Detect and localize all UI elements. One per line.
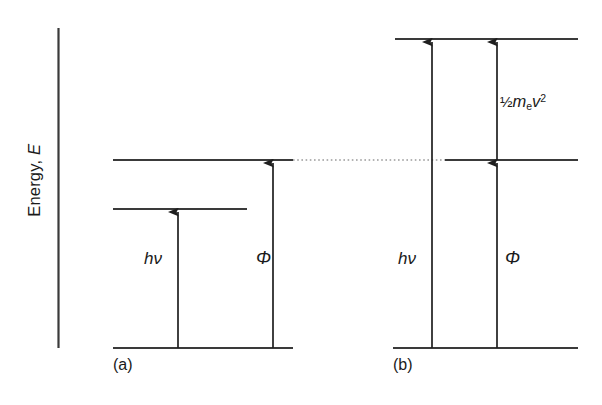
diagram-canvas	[0, 0, 602, 405]
panel-a-photon-energy-label: hν	[144, 250, 162, 267]
photoelectric-effect-diagram: Energy, E hν Φ hν Φ ½mev2 (a) (b)	[0, 0, 602, 405]
kinetic-energy-label: ½mev2	[500, 93, 546, 111]
kinetic-energy-mass-symbol: m	[513, 92, 527, 110]
kinetic-energy-velocity-exponent: 2	[540, 92, 546, 104]
panel-b-tag: (b)	[393, 357, 413, 373]
energy-axis-label-symbol: E	[25, 144, 43, 155]
panel-a-work-function-label: Φ	[256, 249, 271, 267]
energy-axis-label: Energy, E	[26, 100, 43, 260]
panel-b-photon-energy-label: hν	[398, 250, 416, 267]
panel-a-tag: (a)	[113, 357, 133, 373]
panel-b-work-function-label: Φ	[505, 249, 520, 267]
kinetic-energy-fraction: ½	[500, 93, 513, 110]
energy-axis-label-text: Energy,	[25, 155, 43, 217]
